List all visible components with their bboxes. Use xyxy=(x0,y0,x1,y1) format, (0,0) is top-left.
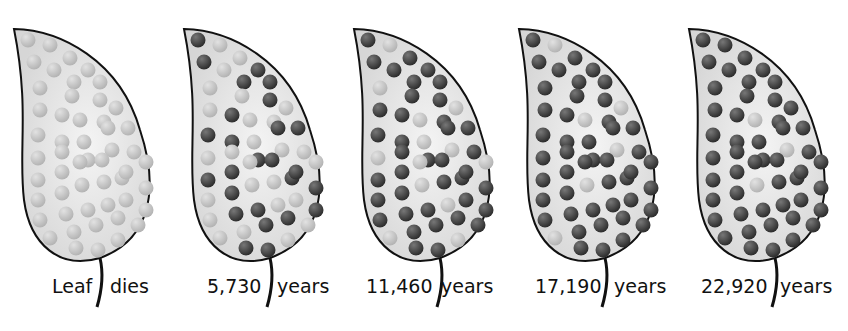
undecayed-atom-icon xyxy=(111,211,126,226)
undecayed-atom-icon xyxy=(67,225,82,240)
decayed-atom-icon xyxy=(291,121,306,136)
undecayed-atom-icon xyxy=(297,145,312,160)
decayed-atom-icon xyxy=(309,203,324,218)
decayed-atom-icon xyxy=(740,89,755,104)
leaf-panel-22920-years: 22,920 years xyxy=(675,0,845,331)
undecayed-atom-icon xyxy=(69,241,84,256)
undecayed-atom-icon xyxy=(93,75,108,90)
decayed-atom-icon xyxy=(582,135,597,150)
undecayed-atom-icon xyxy=(139,181,154,196)
decayed-atom-icon xyxy=(708,103,723,118)
undecayed-atom-icon xyxy=(47,63,62,78)
decayed-atom-icon xyxy=(479,181,494,196)
undecayed-atom-icon xyxy=(309,155,324,170)
undecayed-atom-icon xyxy=(81,203,96,218)
decayed-atom-icon xyxy=(572,225,587,240)
undecayed-atom-icon xyxy=(65,89,80,104)
decayed-atom-icon xyxy=(225,165,240,180)
decayed-atom-icon xyxy=(616,211,631,226)
decayed-atom-icon xyxy=(776,121,791,136)
decayed-atom-icon xyxy=(239,241,254,256)
undecayed-atom-icon xyxy=(413,155,428,170)
decayed-atom-icon xyxy=(403,51,418,66)
decayed-atom-icon xyxy=(467,145,482,160)
undecayed-atom-icon xyxy=(43,38,58,53)
decayed-atom-icon xyxy=(373,103,388,118)
leaf-panel-5730-years: 5,730 years xyxy=(170,0,340,331)
decayed-atom-icon xyxy=(586,203,601,218)
decayed-atom-icon xyxy=(395,186,410,201)
decayed-atom-icon xyxy=(263,75,278,90)
decayed-atom-icon xyxy=(431,243,446,258)
undecayed-atom-icon xyxy=(21,33,36,48)
undecayed-atom-icon xyxy=(578,113,593,128)
decayed-atom-icon xyxy=(770,153,785,168)
undecayed-atom-icon xyxy=(371,151,386,166)
undecayed-atom-icon xyxy=(33,213,48,228)
undecayed-atom-icon xyxy=(91,243,106,258)
decayed-atom-icon xyxy=(564,207,579,222)
undecayed-atom-icon xyxy=(131,218,146,233)
decayed-atom-icon xyxy=(197,55,212,70)
undecayed-atom-icon xyxy=(127,145,142,160)
decayed-atom-icon xyxy=(259,218,274,233)
undecayed-atom-icon xyxy=(271,198,286,213)
decayed-atom-icon xyxy=(626,121,641,136)
decayed-atom-icon xyxy=(371,173,386,188)
decayed-atom-icon xyxy=(796,121,811,136)
decayed-atom-icon xyxy=(606,198,621,213)
panel-left-label: 22,920 xyxy=(701,275,767,297)
decayed-atom-icon xyxy=(399,207,414,222)
undecayed-atom-icon xyxy=(55,186,70,201)
decayed-atom-icon xyxy=(644,155,659,170)
decayed-atom-icon xyxy=(730,145,745,160)
decayed-atom-icon xyxy=(730,165,745,180)
decayed-atom-icon xyxy=(708,81,723,96)
undecayed-atom-icon xyxy=(413,113,428,128)
decayed-atom-icon xyxy=(201,128,216,143)
decayed-atom-icon xyxy=(706,128,721,143)
decayed-atom-icon xyxy=(552,63,567,78)
decayed-atom-icon xyxy=(191,33,206,48)
decayed-atom-icon xyxy=(437,175,452,190)
undecayed-atom-icon xyxy=(237,225,252,240)
decayed-atom-icon xyxy=(748,155,763,170)
decayed-atom-icon xyxy=(409,241,424,256)
leaf-panel-leaf-dies: Leaf dies xyxy=(0,0,170,331)
decayed-atom-icon xyxy=(744,241,759,256)
undecayed-atom-icon xyxy=(203,103,218,118)
decayed-atom-icon xyxy=(596,243,611,258)
decayed-atom-icon xyxy=(616,233,631,248)
undecayed-atom-icon xyxy=(119,193,134,208)
decayed-atom-icon xyxy=(730,108,745,123)
decayed-atom-icon xyxy=(624,193,639,208)
decayed-atom-icon xyxy=(395,145,410,160)
decayed-atom-icon xyxy=(814,155,829,170)
undecayed-atom-icon xyxy=(55,165,70,180)
undecayed-atom-icon xyxy=(101,121,116,136)
undecayed-atom-icon xyxy=(748,113,763,128)
undecayed-atom-icon xyxy=(55,145,70,160)
decayed-atom-icon xyxy=(702,55,717,70)
decayed-atom-icon xyxy=(734,207,749,222)
panel-right-label: years xyxy=(441,275,493,297)
decayed-atom-icon xyxy=(586,63,601,78)
decayed-atom-icon xyxy=(786,211,801,226)
decayed-atom-icon xyxy=(265,153,280,168)
undecayed-atom-icon xyxy=(33,103,48,118)
undecayed-atom-icon xyxy=(289,193,304,208)
undecayed-atom-icon xyxy=(449,101,464,116)
undecayed-atom-icon xyxy=(203,81,218,96)
decayed-atom-icon xyxy=(624,165,639,180)
undecayed-atom-icon xyxy=(548,38,563,53)
decayed-atom-icon xyxy=(738,51,753,66)
decayed-atom-icon xyxy=(776,198,791,213)
undecayed-atom-icon xyxy=(217,63,232,78)
decayed-atom-icon xyxy=(395,165,410,180)
decayed-atom-icon xyxy=(632,145,647,160)
decayed-atom-icon xyxy=(598,93,613,108)
decayed-atom-icon xyxy=(560,108,575,123)
decayed-atom-icon xyxy=(708,213,723,228)
decayed-atom-icon xyxy=(606,121,621,136)
decayed-atom-icon xyxy=(538,81,553,96)
